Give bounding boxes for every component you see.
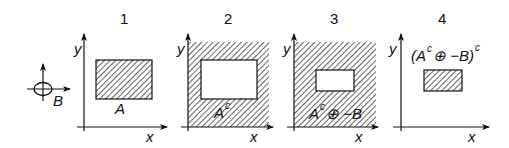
- svg-text:⊕ −B: ⊕ −B: [326, 105, 362, 122]
- eroded-hole: [316, 70, 354, 91]
- svg-text:⊕ −B): ⊕ −B): [433, 47, 474, 64]
- structuring-element-label: B: [53, 92, 63, 109]
- x-axis-label: x: [467, 128, 476, 145]
- region-label: A c ⊕ −B: [308, 101, 362, 122]
- svg-text:A: A: [213, 104, 224, 121]
- erosion-result-region: [424, 70, 462, 91]
- panel-4: 4 y x (A c ⊕ −B) c: [388, 10, 489, 145]
- panel-3: 3 y x A c ⊕ −B: [282, 10, 378, 145]
- crosshair-ellipse-icon: [27, 64, 70, 101]
- set-a-region: [96, 60, 152, 99]
- panel-1: 1 y x A: [73, 10, 167, 145]
- morphology-diagram: B 1 y x A 2 y x A c 3 y x A c: [0, 0, 509, 148]
- svg-text:(A: (A: [411, 47, 426, 64]
- panel-number: 3: [330, 10, 338, 27]
- x-axis-label: x: [145, 128, 154, 145]
- y-axis-label: y: [73, 40, 83, 57]
- x-axis-label: x: [354, 128, 363, 145]
- region-label: (A c ⊕ −B) c: [411, 42, 480, 64]
- x-axis-label: x: [249, 128, 258, 145]
- y-axis-label: y: [282, 40, 292, 57]
- panel-number: 2: [224, 10, 232, 27]
- svg-text:c: c: [225, 100, 230, 111]
- region-label: A c: [213, 100, 243, 121]
- svg-text:c: c: [320, 101, 325, 112]
- svg-text:A: A: [308, 105, 319, 122]
- y-axis-label: y: [176, 40, 186, 57]
- svg-text:c: c: [475, 42, 480, 53]
- y-axis-label: y: [388, 40, 398, 57]
- region-label: A: [114, 100, 125, 117]
- panel-2: 2 y x A c: [176, 10, 273, 145]
- structuring-element-b: B: [27, 64, 70, 109]
- set-a-hole: [201, 60, 257, 99]
- panel-number: 1: [120, 10, 128, 27]
- panel-number: 4: [438, 10, 446, 27]
- svg-text:c: c: [427, 43, 432, 54]
